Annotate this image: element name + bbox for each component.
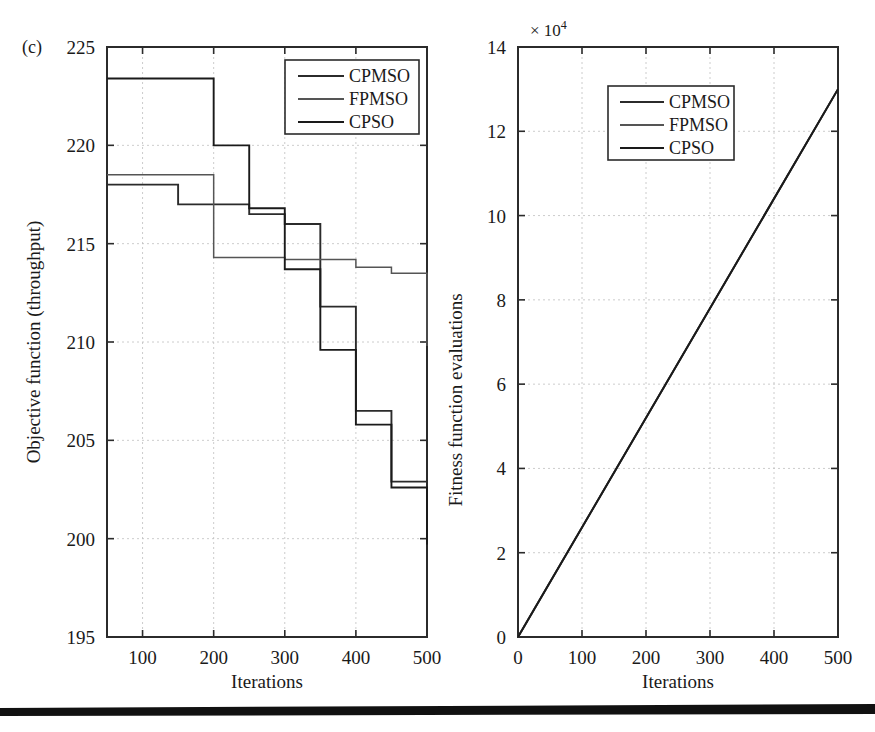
r-y-tick-2: 2: [497, 543, 507, 564]
l-x-tick-100: 100: [128, 647, 157, 668]
left-x-axis-label: Iterations: [231, 671, 303, 692]
r-y-tick-0: 0: [497, 627, 507, 648]
panel-label-c: (c): [22, 37, 42, 58]
l-y-tick-195: 195: [67, 627, 96, 648]
r-y-tick-14: 14: [487, 37, 507, 58]
r-x-tick-0: 0: [513, 647, 523, 668]
figure-svg: (c) 195200205210215220225 10020030040050…: [0, 0, 875, 732]
right-x-axis-label: Iterations: [642, 671, 714, 692]
left-legend-item-cpmso[interactable]: CPMSO: [349, 66, 410, 86]
right-y-axis-label: Fitness function evaluations: [445, 293, 466, 506]
right-y-tick-labels: 02468101214: [487, 37, 507, 648]
right-legend-item-cpmso[interactable]: CPMSO: [669, 92, 730, 112]
objective-function-chart: (c) 195200205210215220225 10020030040050…: [22, 37, 441, 692]
r-y-tick-6: 6: [497, 374, 507, 395]
l-x-tick-400: 400: [342, 647, 371, 668]
left-legend-item-cpso[interactable]: CPSO: [349, 112, 394, 132]
l-y-tick-205: 205: [67, 430, 96, 451]
left-series-lines: [107, 78, 427, 544]
right-legend-item-fpmso[interactable]: FPMSO: [669, 115, 728, 135]
left-gridlines: [107, 47, 427, 637]
left-y-tick-labels: 195200205210215220225: [67, 37, 96, 648]
r-x-tick-400: 400: [760, 647, 789, 668]
l-y-tick-220: 220: [67, 135, 96, 156]
r-x-tick-300: 300: [696, 647, 725, 668]
figure-container: (c) 195200205210215220225 10020030040050…: [0, 0, 875, 732]
right-legend-item-cpso[interactable]: CPSO: [669, 138, 714, 158]
l-x-tick-500: 500: [413, 647, 442, 668]
l-y-tick-210: 210: [67, 332, 96, 353]
right-x-tick-labels: 0100200300400500: [513, 647, 852, 668]
fitness-evaluations-chart: × 104 02468101214 0100200300400500 CPMSO…: [445, 18, 852, 692]
l-y-tick-200: 200: [67, 529, 96, 550]
bottom-rule-divider: [0, 704, 875, 716]
series-line-cpso: [107, 78, 427, 544]
l-x-tick-200: 200: [199, 647, 228, 668]
series-line-fpmso: [107, 175, 427, 346]
series-line-cpmso: [107, 185, 427, 523]
r-y-tick-12: 12: [487, 121, 506, 142]
right-legend[interactable]: CPMSO FPMSO CPSO: [608, 86, 734, 160]
right-series-lines: [518, 89, 838, 637]
left-legend-item-fpmso[interactable]: FPMSO: [349, 89, 408, 109]
r-y-tick-4: 4: [497, 458, 507, 479]
r-x-tick-500: 500: [824, 647, 853, 668]
l-x-tick-300: 300: [271, 647, 300, 668]
left-x-tick-labels: 100200300400500: [128, 647, 441, 668]
series-line-cpso: [518, 89, 838, 637]
r-x-tick-200: 200: [632, 647, 661, 668]
l-y-tick-225: 225: [67, 37, 96, 58]
r-y-tick-8: 8: [497, 290, 507, 311]
r-x-tick-100: 100: [568, 647, 597, 668]
left-legend[interactable]: CPMSO FPMSO CPSO: [285, 60, 419, 134]
right-y-axis-multiplier: × 104: [530, 18, 567, 40]
r-y-tick-10: 10: [487, 206, 506, 227]
left-y-axis-label: Objective function (throughput): [23, 221, 45, 464]
l-y-tick-215: 215: [67, 234, 96, 255]
